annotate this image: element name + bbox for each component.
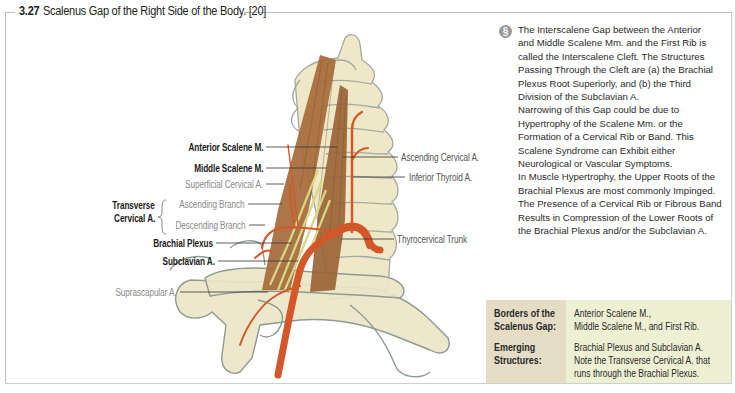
label-transverse-cervical-line2: Cervical A. xyxy=(114,213,155,224)
table-header-borders: Borders of the xyxy=(494,307,555,320)
label-suprascapular: Suprascapular A. xyxy=(116,287,177,298)
label-ascending-branch: Ascending Branch xyxy=(180,199,245,210)
table-value-emerging: Brachial Plexus and Subclavian A. xyxy=(574,341,703,354)
table-header-emerging: Structures: xyxy=(494,354,542,367)
info-line: Narrowing of this Gap could be due to xyxy=(518,103,735,116)
label-middle-scalene: Middle Scalene M. xyxy=(194,163,263,174)
label-thyrocervical-trunk: Thyrocervical Trunk xyxy=(397,234,467,245)
info-line: and Middle Scalene Mm. and the First Rib… xyxy=(518,36,735,49)
table-value-borders: Middle Scalene M., and First Rib. xyxy=(574,320,699,333)
info-line: Passing Through the Cleft are (a) the Br… xyxy=(518,63,735,76)
info-line: The Presence of a Cervical Rib or Fibrou… xyxy=(518,197,735,210)
info-line: In Muscle Hypertrophy, the Upper Roots o… xyxy=(518,170,735,183)
label-transverse-cervical-line1: Transverse xyxy=(113,200,155,211)
table-value-borders: Anterior Scalene M., xyxy=(574,307,651,320)
label-brachial-plexus: Brachial Plexus xyxy=(153,238,213,249)
info-line: Formation of a Cervical Rib or Band. Thi… xyxy=(518,130,735,143)
info-line: Scalene Syndrome can Exhibit either xyxy=(518,144,735,157)
label-ascending-cervical: Ascending Cervical A. xyxy=(401,152,479,163)
info-circle-icon: § xyxy=(499,25,512,38)
info-line: Brachial Plexus are most commonly Imping… xyxy=(518,184,735,197)
transverse-cervical-bracket xyxy=(158,200,166,234)
table-header-emerging: Emerging xyxy=(494,341,535,354)
label-superficial-cervical: Superficial Cervical A. xyxy=(185,179,263,190)
table-value-emerging: Note the Transverse Cervical A. that xyxy=(574,354,710,367)
summary-table: Borders of the Scalenus Gap: Anterior Sc… xyxy=(486,300,731,383)
label-anterior-scalene: Anterior Scalene M. xyxy=(188,142,263,153)
info-line: Neurological or Vascular Symptoms. xyxy=(518,157,735,170)
info-note: The Interscalene Gap between the Anterio… xyxy=(518,23,735,238)
info-line: Results in Compression of the Lower Root… xyxy=(518,211,735,224)
table-value-emerging: runs through the Brachial Plexus. xyxy=(574,367,699,380)
info-line: Division of the Subclavian A. xyxy=(518,90,735,103)
info-line: Hypertrophy of the Scalene Mm. or the xyxy=(518,117,735,130)
label-subclavian: Subclavian A. xyxy=(163,256,215,267)
info-line: called the Interscalene Cleft. The Struc… xyxy=(518,50,735,63)
label-descending-branch: Descending Branch xyxy=(176,220,246,231)
info-line: the Brachial Plexus and/or the Subclavia… xyxy=(518,224,735,237)
label-inferior-thyroid: Inferior Thyroid A. xyxy=(409,172,472,183)
info-line: The Interscalene Gap between the Anterio… xyxy=(518,23,735,36)
table-header-borders: Scalenus Gap: xyxy=(494,320,556,333)
info-line: Plexus Root Superiorly, and (b) the Thir… xyxy=(518,77,735,90)
